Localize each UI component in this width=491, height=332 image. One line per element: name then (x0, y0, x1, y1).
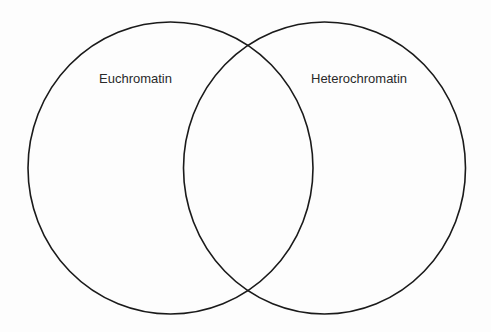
venn-circles (0, 0, 491, 332)
heterochromatin-label: Heterochromatin (311, 72, 407, 85)
euchromatin-label: Euchromatin (99, 72, 172, 85)
heterochromatin-circle (184, 22, 466, 314)
venn-diagram: Euchromatin Heterochromatin (0, 0, 491, 332)
euchromatin-circle (28, 22, 313, 314)
